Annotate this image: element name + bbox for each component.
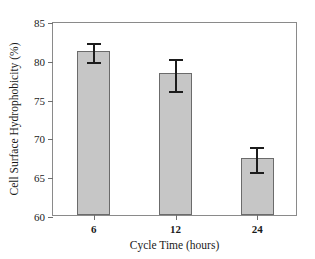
y-axis-tick [48, 217, 53, 218]
x-axis-tick-label: 12 [170, 224, 181, 235]
x-axis-tick [257, 215, 258, 220]
bar [159, 73, 192, 215]
y-axis-tick [48, 101, 53, 102]
y-axis-tick-label: 60 [34, 212, 45, 223]
bar [77, 51, 110, 216]
error-bar-cap-upper [169, 59, 183, 61]
chart-figure: 60657075808561224 Cell Surface Hydrophob… [0, 0, 315, 259]
error-bar-line [93, 43, 95, 62]
plot-frame: 60657075808561224 [52, 22, 297, 216]
y-axis-tick-label: 80 [34, 56, 45, 67]
error-bar-cap-lower [250, 172, 264, 174]
x-axis-tick-label: 6 [91, 224, 97, 235]
y-axis-tick-label: 70 [34, 134, 45, 145]
y-axis-tick-label: 65 [34, 173, 45, 184]
y-axis-title: Cell Surface Hydrophobicity (%) [6, 22, 22, 216]
error-bar-cap-lower [169, 91, 183, 93]
x-axis-tick [94, 215, 95, 220]
y-axis-tick-label: 85 [34, 18, 45, 29]
error-bar-line [256, 147, 258, 172]
error-bar-line [175, 59, 177, 92]
x-axis-title: Cycle Time (hours) [52, 238, 297, 252]
x-axis-tick-label: 24 [252, 224, 263, 235]
x-axis-tick [176, 215, 177, 220]
error-bar-cap-upper [250, 147, 264, 149]
y-axis-tick [48, 23, 53, 24]
y-axis-tick [48, 139, 53, 140]
y-axis-tick-label: 75 [34, 95, 45, 106]
error-bar-cap-lower [87, 62, 101, 64]
plot-area: 60657075808561224 [53, 23, 296, 215]
y-axis-tick [48, 62, 53, 63]
error-bar-cap-upper [87, 43, 101, 45]
y-axis-tick [48, 178, 53, 179]
